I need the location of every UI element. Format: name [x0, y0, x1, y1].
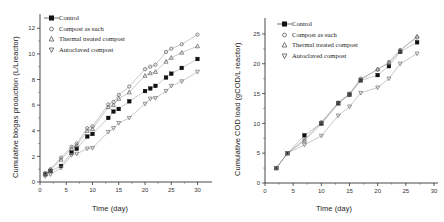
data-point-square: [127, 99, 131, 103]
series-line: [276, 42, 417, 168]
x-tick-label: 5: [65, 187, 69, 193]
x-tick-label: 10: [89, 187, 96, 193]
legend-label-compost-as-such: Compost as such: [59, 24, 104, 34]
series-markers: [43, 70, 199, 178]
legend-item-autoclaved-compost: Autoclaved compost: [277, 51, 358, 62]
data-point-square: [154, 84, 158, 88]
legend-item-compost-as-such: Compost as such: [277, 30, 358, 41]
x-tick-label: 25: [168, 187, 175, 193]
legend-item-thermal-treated-compost: Thermal treated compost: [44, 34, 125, 45]
y-tick-label: 6: [32, 102, 36, 108]
x-tick-label: 20: [374, 188, 381, 194]
data-point-square: [117, 107, 121, 111]
biogas-legend: Control Compost as such Thermal treated …: [44, 13, 125, 55]
data-point-square: [106, 116, 110, 120]
legend-label-thermal-treated-compost: Thermal treated compost: [59, 34, 125, 44]
data-point-square: [164, 76, 168, 80]
data-point-square: [91, 132, 95, 136]
legend-item-control: Control: [44, 13, 125, 24]
x-tick-label: 30: [194, 187, 201, 193]
data-point-circle: [196, 33, 199, 36]
legend-item-autoclaved-compost: Autoclaved compost: [44, 45, 125, 56]
y-tick-label: 0: [32, 179, 36, 185]
y-tick-label: 0: [257, 180, 261, 186]
series-markers: [43, 44, 199, 175]
x-tick-label: 10: [318, 188, 325, 194]
x-tick-label: 0: [38, 187, 42, 193]
data-point-square: [112, 110, 116, 114]
x-axis-ticks: 051015202530: [263, 183, 438, 194]
biogas-x-axis-label: Time (day): [92, 204, 128, 213]
triangle-down-icon: [44, 46, 59, 54]
y-axis-ticks: 0510152025: [253, 31, 265, 186]
y-tick-label: 25: [253, 31, 260, 37]
data-point-square: [85, 135, 89, 139]
x-tick-label: 25: [402, 188, 409, 194]
cod-x-axis-label: Time (day): [316, 204, 352, 213]
filled-square-icon: [44, 14, 59, 22]
x-tick-label: 15: [346, 188, 353, 194]
y-tick-label: 5: [257, 150, 261, 156]
y-tick-label: 2: [32, 154, 36, 160]
open-circle-icon: [277, 31, 292, 39]
data-point-square: [169, 72, 173, 76]
data-point-square: [376, 73, 380, 77]
series-line: [45, 59, 197, 174]
legend-item-thermal-treated-compost: Thermal treated compost: [277, 40, 358, 51]
x-tick-label: 0: [263, 188, 267, 194]
data-point-square: [143, 89, 147, 93]
legend-label-control: Control: [292, 19, 312, 29]
data-point-square: [180, 66, 184, 70]
legend-label-thermal-treated-compost: Thermal treated compost: [292, 40, 358, 50]
legend-item-control: Control: [277, 19, 358, 30]
y-tick-label: 20: [253, 61, 260, 67]
x-tick-label: 15: [115, 187, 122, 193]
data-point-square: [415, 40, 419, 44]
series-line: [45, 72, 197, 176]
data-point-triangle-up: [196, 44, 200, 48]
y-tick-label: 4: [32, 128, 36, 134]
y-tick-label: 8: [32, 77, 36, 83]
filled-square-icon: [277, 20, 292, 28]
legend-item-compost-as-such: Compost as such: [44, 24, 125, 35]
legend-label-compost-as-such: Compost as such: [292, 30, 337, 40]
chart-panel-biogas: 051015202530024681012 Cumulative biogas …: [0, 0, 222, 222]
cod-y-axis-label: Cumulative COD load (gCOD/L reactor): [233, 42, 242, 176]
data-point-square: [196, 57, 200, 61]
triangle-up-icon: [277, 41, 292, 49]
series-markers: [274, 52, 419, 170]
data-point-square: [303, 133, 307, 137]
legend-label-autoclaved-compost: Autoclaved compost: [292, 51, 346, 61]
y-tick-label: 10: [253, 121, 260, 127]
open-circle-icon: [44, 25, 59, 33]
biogas-y-axis-label: Cumulative biogas production (L/Lreactor…: [11, 36, 20, 178]
series-line: [276, 54, 417, 168]
figure-container: 051015202530024681012 Cumulative biogas …: [0, 0, 444, 222]
y-axis-ticks: 024681012: [28, 25, 40, 185]
x-tick-label: 20: [142, 187, 149, 193]
data-point-square: [148, 87, 152, 91]
legend-label-autoclaved-compost: Autoclaved compost: [59, 45, 113, 55]
legend-label-control: Control: [59, 13, 79, 23]
y-tick-label: 10: [28, 51, 35, 57]
triangle-up-icon: [44, 35, 59, 43]
triangle-down-icon: [277, 52, 292, 60]
x-tick-label: 30: [431, 188, 438, 194]
x-tick-label: 5: [291, 188, 295, 194]
y-tick-label: 12: [28, 25, 35, 31]
series-line: [45, 46, 197, 173]
y-tick-label: 15: [253, 91, 260, 97]
cod-legend: Control Compost as such Thermal treated …: [277, 19, 358, 61]
x-axis-ticks: 051015202530: [38, 182, 201, 193]
